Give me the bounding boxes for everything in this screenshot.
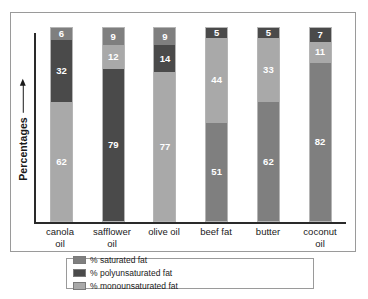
bar-segment-value: 5 [214,28,219,38]
legend-color-swatch [73,282,86,290]
bar-segment-value: 51 [211,167,222,177]
bar-segment-monounsaturated: 11 [310,42,331,63]
legend-color-swatch [73,269,86,277]
x-tick-label-line: canola [35,226,85,238]
bar-segment-value: 14 [160,54,171,64]
bar-column: 63262 [36,27,86,222]
bar-column: 91477 [140,27,190,222]
legend-color-swatch [73,256,86,264]
bar-segment-value: 62 [263,157,274,167]
y-axis-label-text: Percentages [17,117,29,181]
x-tick-label-line: olive oil [139,226,189,238]
bar-segment-polyunsaturated: 32 [51,40,72,102]
bar-segment-value: 6 [59,29,64,39]
bar-segment-saturated: 9 [154,28,175,45]
bar-segment-value: 9 [111,32,116,42]
bar-segment-value: 11 [315,47,325,57]
bar-segment-value: 9 [162,32,167,42]
bar-segment-value: 44 [211,75,222,85]
bar-segment-saturated: 51 [206,123,227,222]
stacked-bar[interactable]: 53362 [257,27,280,222]
stacked-bar[interactable]: 63262 [50,27,73,222]
chart-legend: % saturated fat% polyunsaturated fat% mo… [66,258,314,289]
bar-series-container: 632629127991477544515336271182 [36,27,346,222]
bar-segment-monounsaturated: 62 [51,102,72,222]
stacked-bar[interactable]: 54451 [205,27,228,222]
legend-item[interactable]: % monounsaturated fat [73,280,201,292]
stacked-bar[interactable]: 91477 [153,27,176,222]
x-tick-label: olive oil [139,226,189,249]
bar-segment-monounsaturated: 44 [206,38,227,123]
bar-segment-saturated: 82 [310,63,331,222]
bar-segment-monounsaturated: 33 [258,38,279,102]
bar-segment-polyunsaturated: 5 [258,28,279,38]
x-tick-label-line: safflower [87,226,137,238]
bar-segment-value: 5 [266,28,271,38]
legend-item[interactable]: % saturated fat [73,254,201,266]
bar-segment-value: 7 [317,30,322,40]
bar-segment-polyunsaturated: 79 [103,69,124,222]
legend-label: % saturated fat [90,255,147,265]
x-tick-label-line: butter [243,226,293,238]
stacked-bar[interactable]: 71182 [309,27,332,222]
bar-segment-value: 32 [56,66,67,76]
bar-segment-monounsaturated: 12 [103,45,124,68]
bar-segment-value: 12 [108,52,119,62]
bar-segment-polyunsaturated: 7 [310,28,331,42]
legend-label: % monounsaturated fat [90,281,178,291]
plot-area: 632629127991477544515336271182 [34,27,346,224]
bar-column: 71182 [295,27,345,222]
chart-root: Percentages 6326291279914775445153362711… [0,0,368,299]
bar-segment-polyunsaturated: 5 [206,28,227,38]
x-tick-label: coconutoil [295,226,345,249]
bar-segment-value: 79 [108,140,119,150]
bar-segment-monounsaturated: 77 [154,72,175,221]
x-tick-label: beef fat [191,226,241,249]
bar-segment-value: 82 [315,137,326,147]
bar-segment-polyunsaturated: 14 [154,45,175,72]
bar-segment-value: 77 [160,142,171,152]
bar-column: 91279 [88,27,138,222]
bar-segment-value: 62 [56,157,67,167]
bar-column: 54451 [192,27,242,222]
bar-segment-saturated: 6 [51,28,72,40]
bar-segment-saturated: 9 [103,28,124,45]
x-tick-label-line: coconut [295,226,345,238]
stacked-bar[interactable]: 91279 [102,27,125,222]
x-tick-label-line: oil [295,238,345,250]
x-tick-label: canolaoil [35,226,85,249]
x-tick-label-line: oil [87,238,137,250]
legend-item[interactable]: % polyunsaturated fat [73,267,189,279]
x-tick-label: butter [243,226,293,249]
legend-label: % polyunsaturated fat [90,268,172,278]
x-tick-label: saffloweroil [87,226,137,249]
bar-segment-saturated: 62 [258,102,279,222]
x-axis-tick-labels: canolaoilsaffloweroilolive oilbeef fatbu… [34,226,346,249]
x-tick-label-line: beef fat [191,226,241,238]
y-axis-up-arrow-icon [19,79,27,113]
x-tick-label-line: oil [35,238,85,250]
x-axis-line [34,222,346,224]
y-axis-label: Percentages [12,30,34,230]
bar-segment-value: 33 [263,65,274,75]
bar-column: 53362 [243,27,293,222]
